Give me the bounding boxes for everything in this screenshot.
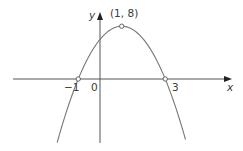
parabola-graph: y (1, 8) −1 0 3 x <box>0 0 243 151</box>
origin-label: 0 <box>91 81 98 93</box>
root-right-label: 3 <box>172 81 179 93</box>
vertex-marker <box>120 24 124 28</box>
vertex-label: (1, 8) <box>110 7 138 19</box>
y-axis-label: y <box>88 9 96 21</box>
root-left-label: −1 <box>64 81 79 93</box>
root-right-marker <box>163 77 167 81</box>
y-axis-arrow-icon <box>97 12 103 20</box>
x-axis-label: x <box>226 81 234 93</box>
